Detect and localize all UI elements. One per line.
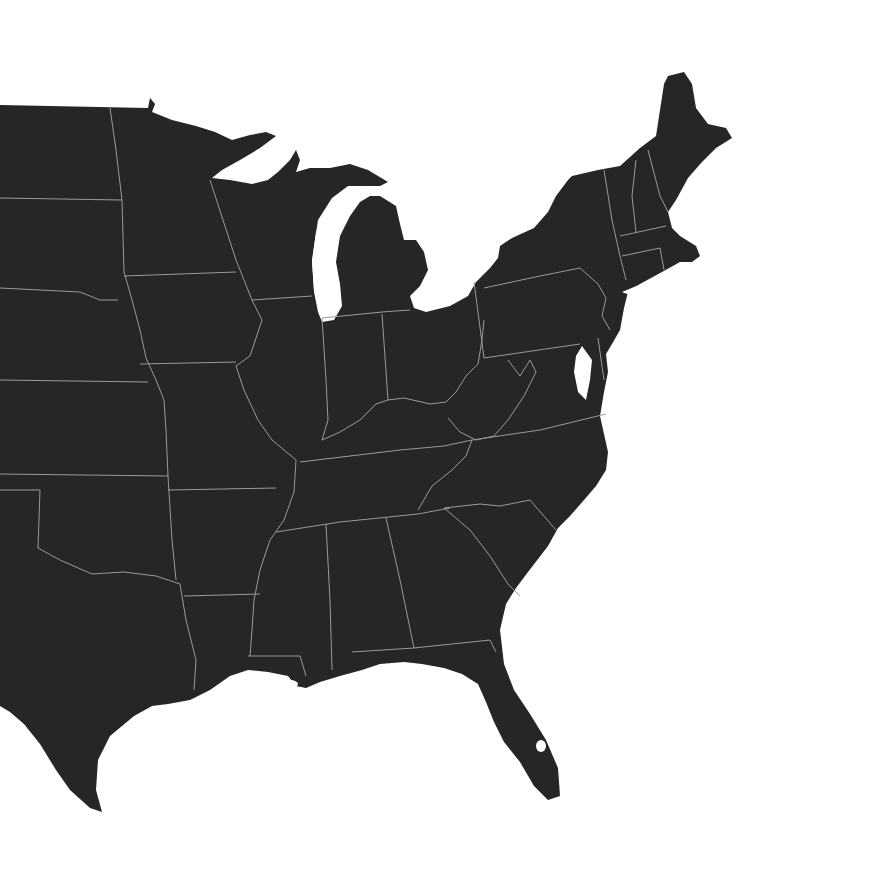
landmass (0, 72, 732, 812)
lake-pontchartrain (282, 680, 298, 688)
lake-okeechobee (536, 740, 546, 752)
us-eastern-states-map (0, 0, 891, 871)
